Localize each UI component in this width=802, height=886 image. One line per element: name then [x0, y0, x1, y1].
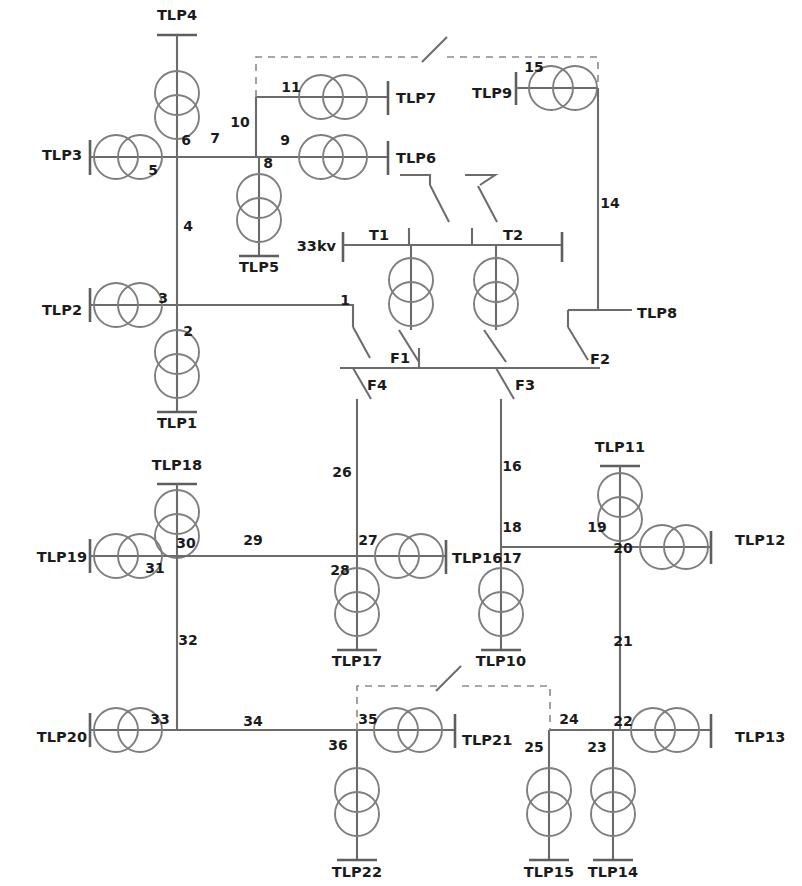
station-label-tlp18: TLP18: [152, 457, 202, 473]
station-label-tlp13: TLP13: [735, 729, 785, 745]
tie-switch-blade-bottom[interactable]: [436, 666, 461, 691]
isolator-t1[interactable]: [400, 175, 449, 245]
station-label-tlp8: TLP8: [637, 305, 677, 321]
branch-number-n33: 33: [150, 711, 169, 727]
station-label-tlp6: TLP6: [396, 150, 436, 166]
switch-blade-line1[interactable]: [353, 327, 370, 358]
feeder-tlp5: [237, 157, 281, 256]
feeder-tlp1: [155, 305, 199, 412]
switch-f4[interactable]: [353, 368, 371, 556]
station-label-tlp16: TLP16: [452, 550, 502, 566]
tie-line-bottom: [357, 666, 550, 730]
equipment-label-t1: T1: [369, 227, 389, 243]
branch-number-n22: 22: [613, 713, 632, 729]
branch-number-n6: 6: [181, 132, 191, 148]
tie-switch-blade-top[interactable]: [422, 37, 447, 62]
switch-blade-t1[interactable]: [430, 185, 449, 222]
branch-number-n25: 25: [524, 739, 543, 755]
branch-number-n15: 15: [524, 59, 543, 75]
equipment-label-t2: T2: [503, 227, 523, 243]
branch-number-n29: 29: [243, 532, 262, 548]
branch-number-n28: 28: [330, 562, 349, 578]
station-label-tlp1: TLP1: [157, 415, 197, 431]
isolator-t2[interactable]: [465, 175, 497, 245]
station-label-tlp15: TLP15: [524, 864, 574, 880]
branch-number-n30: 30: [176, 535, 196, 551]
equipment-label-kv33: 33kv: [297, 238, 337, 254]
feeder-tlp3: [90, 135, 177, 179]
station-label-tlp22: TLP22: [332, 864, 382, 880]
branch-number-n19: 19: [587, 519, 606, 535]
switch-blade-t2[interactable]: [478, 186, 497, 222]
branch-number-n9: 9: [280, 132, 290, 148]
station-label-tlp17: TLP17: [332, 653, 382, 669]
station-label-tlp7: TLP7: [396, 90, 436, 106]
equipment-label-f1: F1: [390, 350, 410, 366]
branch-number-n3: 3: [158, 290, 168, 306]
branch-number-n1: 1: [340, 292, 350, 308]
station-label-tlp21: TLP21: [462, 732, 512, 748]
station-label-tlp14: TLP14: [588, 864, 638, 880]
branch-number-n16: 16: [502, 458, 521, 474]
transformer-t2: [474, 245, 518, 362]
branch-number-n34: 34: [243, 713, 263, 729]
branch-number-n17: 17: [502, 550, 521, 566]
equipment-label-f3: F3: [515, 377, 535, 393]
branch-number-n2: 2: [183, 323, 193, 339]
branch-number-n14: 14: [600, 195, 620, 211]
branch-number-n7: 7: [210, 130, 220, 146]
switch-blade-f3[interactable]: [496, 368, 514, 399]
station-label-tlp10: TLP10: [476, 653, 526, 669]
station-label-tlp4: TLP4: [157, 7, 197, 23]
wire-t2-isolator-top: [465, 175, 495, 185]
branch-number-n24: 24: [559, 711, 579, 727]
branch-number-n31: 31: [145, 560, 164, 576]
station-label-tlp11: TLP11: [595, 439, 645, 455]
station-label-tlp9: TLP9: [472, 85, 512, 101]
feeder-tlp4: [155, 35, 199, 157]
branch-number-n18: 18: [502, 519, 521, 535]
branch-number-n26: 26: [332, 464, 351, 480]
dashed-tie-top-right: [447, 57, 598, 88]
branch-number-n35: 35: [358, 711, 377, 727]
branch-number-n4: 4: [183, 218, 193, 234]
branch-number-n27: 27: [358, 532, 377, 548]
branch-number-n8: 8: [263, 155, 273, 171]
switch-blade-t2-lower[interactable]: [484, 330, 506, 362]
station-label-tlp3: TLP3: [42, 147, 82, 163]
single-line-diagram-canvas: TLP1TLP2TLP3TLP4TLP5TLP6TLP7TLP8TLP9TLP1…: [0, 0, 802, 886]
branch-number-n10: 10: [230, 114, 250, 130]
wire-branch-1: [177, 305, 353, 327]
branch-number-n5: 5: [148, 162, 158, 178]
feeder-tlp7: [256, 75, 388, 119]
station-label-tlp2: TLP2: [42, 302, 82, 318]
station-label-tlp5: TLP5: [239, 259, 279, 275]
wire-t1-isolator-top: [400, 175, 430, 185]
single-line-diagram-svg: TLP1TLP2TLP3TLP4TLP5TLP6TLP7TLP8TLP9TLP1…: [0, 0, 802, 886]
branch-number-n36: 36: [328, 737, 347, 753]
equipment-label-f2: F2: [590, 351, 610, 367]
branch-number-n21: 21: [613, 633, 632, 649]
branch-number-n11: 11: [281, 79, 300, 95]
branch-number-n20: 20: [613, 540, 633, 556]
station-label-tlp19: TLP19: [37, 549, 87, 565]
switch-blade-f2[interactable]: [568, 327, 588, 360]
branch-number-n32: 32: [178, 632, 197, 648]
station-label-tlp12: TLP12: [735, 532, 785, 548]
equipment-label-f4: F4: [367, 377, 387, 393]
branch-number-n23: 23: [587, 739, 606, 755]
dashed-tie-bottom-right: [462, 686, 550, 730]
station-label-tlp20: TLP20: [37, 729, 87, 745]
